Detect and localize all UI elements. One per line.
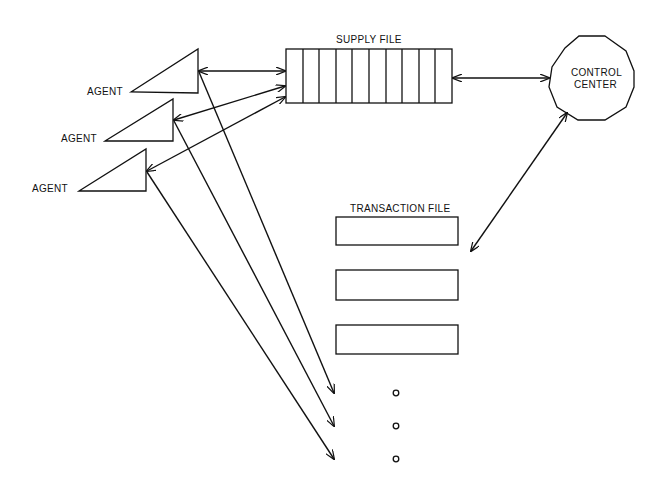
- agent-1-label: AGENT: [87, 86, 123, 97]
- supply-file: SUPPLY FILE: [286, 34, 452, 103]
- control-center-label-line1: CONTROL: [571, 67, 622, 78]
- transaction-record-3: [336, 325, 458, 354]
- transaction-file-label: TRANSACTION FILE: [350, 203, 450, 214]
- arrow-agent2-transaction: [174, 121, 334, 426]
- control-center-label-line2: CENTER: [574, 79, 617, 90]
- supply-file-cell-dividers: [303, 49, 435, 103]
- continuation-dot-2: [393, 423, 399, 429]
- arrow-agent2-supply: [174, 86, 285, 120]
- agent-3-label: AGENT: [32, 183, 68, 194]
- continuation-dot-3: [393, 456, 399, 462]
- transaction-file: TRANSACTION FILE: [336, 203, 458, 462]
- arrow-control-transaction: [471, 113, 567, 251]
- arrow-agent3-transaction: [147, 172, 334, 459]
- agent-1-triangle: [131, 49, 198, 93]
- arrow-agent1-transaction: [199, 72, 334, 393]
- continuation-dot-1: [393, 390, 399, 396]
- agent-2-label: AGENT: [61, 133, 97, 144]
- arrow-agent3-supply: [147, 97, 285, 171]
- agent-3: AGENT: [32, 149, 146, 194]
- agent-2-triangle: [105, 99, 173, 141]
- transaction-record-1: [336, 217, 458, 245]
- agent-3-triangle: [79, 149, 146, 191]
- supply-file-label: SUPPLY FILE: [336, 34, 402, 45]
- agent-1: AGENT: [87, 49, 198, 97]
- agent-supply-control-diagram: AGENT AGENT AGENT SUPPLY FILE CONTROL CE…: [0, 0, 662, 492]
- control-center: CONTROL CENTER: [549, 36, 634, 120]
- agent-2: AGENT: [61, 99, 173, 144]
- control-center-decagon: [549, 36, 634, 120]
- transaction-record-2: [336, 270, 458, 300]
